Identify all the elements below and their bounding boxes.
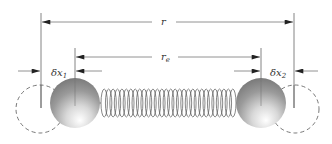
spring xyxy=(98,89,238,117)
dx1-dimension: δx1 xyxy=(18,67,102,80)
dx1-label: δx1 xyxy=(51,67,67,80)
dx2-label: δx2 xyxy=(270,67,287,80)
diatomic-spring-diagram: r re δx1 δx2 xyxy=(0,0,332,144)
r-label: r xyxy=(161,16,167,27)
re-dimension: re xyxy=(76,51,260,64)
r-dimension: r xyxy=(42,16,293,27)
dx2-dimension: δx2 xyxy=(234,67,318,80)
re-label: re xyxy=(161,51,170,64)
